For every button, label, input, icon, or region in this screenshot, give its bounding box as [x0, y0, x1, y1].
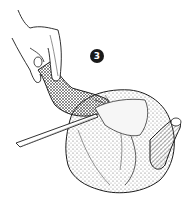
step-number-badge: 3: [90, 49, 104, 63]
hand: [12, 10, 61, 83]
chicken-carving-illustration: [0, 0, 196, 203]
